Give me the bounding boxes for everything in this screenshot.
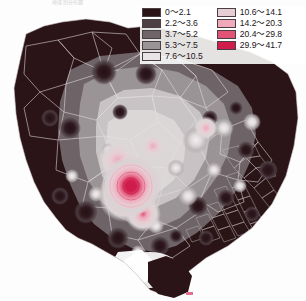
legend-entry[interactable]: 0～2.1 bbox=[142, 7, 203, 18]
legend-entry[interactable]: 29.9～41.7 bbox=[217, 40, 282, 51]
legend-label: 20.4～29.8 bbox=[240, 30, 282, 39]
legend-swatch-icon bbox=[142, 52, 161, 60]
legend-label: 0～2.1 bbox=[165, 8, 191, 17]
legend-swatch-icon bbox=[217, 41, 236, 49]
legend-swatch-icon bbox=[217, 8, 236, 16]
legend-entry[interactable]: 10.6～14.1 bbox=[217, 7, 282, 18]
legend-swatch-icon bbox=[142, 8, 161, 16]
choropleth-legend: 0～2.1 2.2～3.6 3.7～5.2 5.3～7.5 7.6～10.5 bbox=[140, 6, 306, 64]
legend-entry[interactable]: 5.3～7.5 bbox=[142, 40, 203, 51]
legend-swatch-icon bbox=[217, 30, 236, 38]
legend-label: 5.3～7.5 bbox=[165, 41, 198, 50]
legend-entry[interactable]: 3.7～5.2 bbox=[142, 29, 203, 40]
bottom-marker bbox=[186, 292, 193, 295]
legend-label: 29.9～41.7 bbox=[240, 41, 282, 50]
legend-swatch-icon bbox=[142, 19, 161, 27]
legend-label: 3.7～5.2 bbox=[165, 30, 198, 39]
legend-label: 2.2～3.6 bbox=[165, 19, 198, 28]
legend-label: 14.2～20.3 bbox=[240, 19, 282, 28]
legend-swatch-icon bbox=[142, 30, 161, 38]
legend-entry[interactable]: 2.2～3.6 bbox=[142, 18, 203, 29]
legend-column-high: 10.6～14.1 14.2～20.3 20.4～29.8 29.9～41.7 bbox=[217, 7, 282, 63]
legend-entry[interactable]: 7.6～10.5 bbox=[142, 51, 203, 62]
legend-swatch-icon bbox=[217, 19, 236, 27]
legend-swatch-icon bbox=[142, 41, 161, 49]
legend-label: 7.6～10.5 bbox=[165, 52, 203, 61]
legend-entry[interactable]: 14.2～20.3 bbox=[217, 18, 282, 29]
legend-label: 10.6～14.1 bbox=[240, 8, 282, 17]
legend-entry[interactable]: 20.4～29.8 bbox=[217, 29, 282, 40]
legend-column-low: 0～2.1 2.2～3.6 3.7～5.2 5.3～7.5 7.6～10.5 bbox=[142, 7, 203, 63]
figure-canvas: 地域別分布図 bbox=[0, 0, 306, 301]
